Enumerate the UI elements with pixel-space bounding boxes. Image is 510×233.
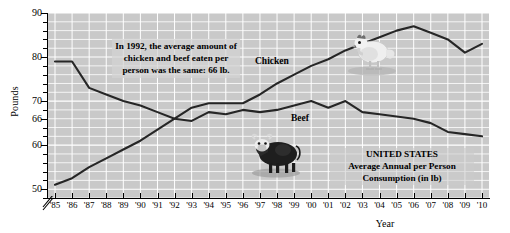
y-tick-label: 80 (16, 51, 42, 62)
y-tick-label: 60 (16, 139, 42, 150)
x-tick-mark (397, 193, 398, 199)
x-tick-mark (226, 193, 227, 199)
annotation-us-line1: UNITED STATES (332, 149, 472, 161)
y-tick-label: 66 (16, 113, 42, 124)
x-tick-mark (362, 193, 363, 199)
chicken-photo (344, 30, 400, 76)
x-axis-title-text: Year (376, 218, 394, 229)
x-tick-mark (175, 193, 176, 199)
x-tick-mark (72, 193, 73, 199)
chart-container: Pounds 908070666050 (0, 0, 510, 233)
y-axis-line (47, 13, 48, 199)
x-tick-mark (123, 193, 124, 199)
x-axis-line (47, 198, 490, 199)
y-tick-label: 70 (16, 95, 42, 106)
series-label-chicken: Chicken (255, 56, 289, 66)
x-tick-mark (192, 193, 193, 199)
x-tick-mark (277, 193, 278, 199)
x-tick-mark (431, 193, 432, 199)
annotation-us-line3: Consumption (in lb) (332, 173, 472, 185)
x-tick-mark (55, 193, 56, 199)
x-tick-mark (209, 193, 210, 199)
series-label-beef: Beef (291, 113, 309, 123)
cow-photo (247, 130, 305, 178)
x-tick-mark (89, 193, 90, 199)
x-tick-mark (106, 193, 107, 199)
x-tick-mark (311, 193, 312, 199)
x-tick-mark (294, 193, 295, 199)
x-tick-mark (345, 193, 346, 199)
annotation-1992-callout: In 1992, the average amount of chicken a… (112, 39, 240, 78)
x-tick-mark (414, 193, 415, 199)
x-tick-mark (158, 193, 159, 199)
x-tick-mark (243, 193, 244, 199)
x-tick-mark (260, 193, 261, 199)
x-tick-mark (482, 193, 483, 199)
x-tick-mark (140, 193, 141, 199)
x-axis-title: Year (0, 218, 510, 229)
x-tick-mark (448, 193, 449, 199)
annotation-united-states: UNITED STATES Average Annual per Person … (330, 148, 474, 185)
annotation-us-line2: Average Annual per Person (332, 161, 472, 173)
x-tick-mark (465, 193, 466, 199)
y-tick-label: 90 (16, 7, 42, 18)
y-tick-label: 50 (16, 183, 42, 194)
x-tick-mark (328, 193, 329, 199)
x-tick-mark (380, 193, 381, 199)
x-tick-label: '10 (471, 200, 493, 210)
